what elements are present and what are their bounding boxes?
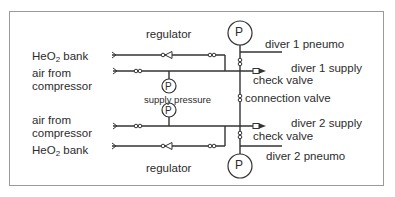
check-valve-top-label: check valve (253, 74, 313, 87)
supply-gauge-upper-label: P (165, 80, 172, 93)
heo2-bank-top-label: HeO2 bank (32, 50, 88, 63)
diver1-pneumo-label: diver 1 pneumo (265, 38, 344, 51)
connection-valve-label: connection valve (245, 92, 331, 105)
regulator-bottom-label: regulator (146, 162, 191, 175)
heo2-bank-bottom-label: HeO2 bank (32, 144, 88, 157)
check-valve-bottom-label: check valve (253, 130, 313, 143)
air-compressor-top-line1: air from (32, 67, 71, 80)
gauge-top-label: P (235, 26, 243, 39)
air-compressor-bottom-line1: air from (32, 114, 71, 127)
air-compressor-bottom-line2: compressor (32, 127, 92, 140)
regulator-top-label: regulator (146, 28, 191, 41)
air-compressor-top-line2: compressor (32, 80, 92, 93)
diver2-supply-label: diver 2 supply (291, 117, 362, 130)
gauge-bottom-label: P (235, 159, 243, 172)
supply-pressure-label: supply pressure (144, 93, 211, 106)
diver2-pneumo-label: diver 2 pneumo (266, 150, 345, 163)
